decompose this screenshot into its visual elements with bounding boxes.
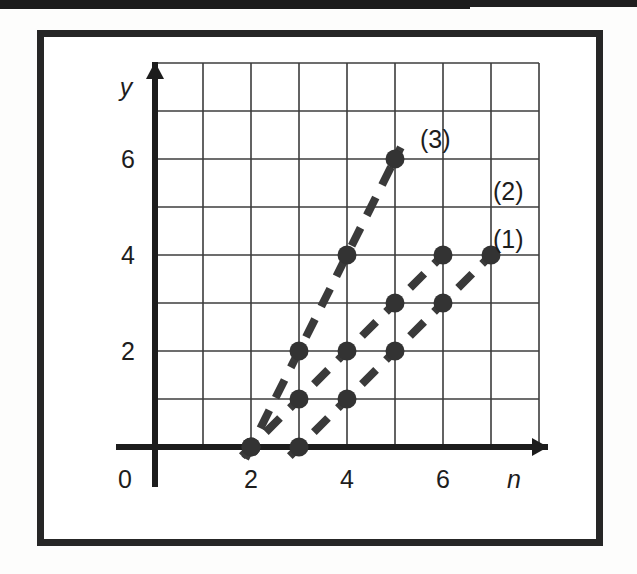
data-point-marker [386,294,405,313]
chart-svg: y n 0 246 246 (3) (2) (1) [0,0,637,574]
x-tick-label: 2 [244,465,258,493]
series-label-2: (2) [493,177,524,205]
x-tick-label: 6 [436,465,450,493]
data-point-marker [338,246,357,265]
data-point-marker [290,390,309,409]
data-point-marker [434,246,453,265]
data-point-marker [290,438,309,457]
y-axis-label: y [118,73,134,101]
x-axis-arrowhead [532,438,548,456]
y-tick-label: 2 [121,337,135,365]
series-label-1: (1) [493,225,524,253]
y-tick-label: 6 [121,145,135,173]
y-tick-labels: 246 [121,145,135,365]
x-tick-labels: 246 [244,465,450,493]
y-axis-arrowhead [146,62,164,79]
x-tick-label: 4 [340,465,354,493]
y-tick-label: 4 [121,241,135,269]
chart-plot-area: y n 0 246 246 (3) (2) (1) [0,0,637,574]
x-axis-label: n [507,465,521,493]
origin-label: 0 [118,465,132,493]
data-point-marker [290,342,309,361]
data-point-marker [434,294,453,313]
data-point-marker [338,342,357,361]
data-point-marker [386,150,405,169]
data-point-marker [242,438,261,457]
data-point-marker [386,342,405,361]
data-point-marker [338,390,357,409]
page-canvas: y n 0 246 246 (3) (2) (1) [0,0,637,574]
axis-lines [116,62,548,487]
series-label-3: (3) [420,125,451,153]
